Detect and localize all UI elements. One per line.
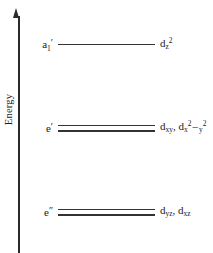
orbital-label-e-prime: dxy, dx2–y2: [160, 121, 213, 132]
symmetry-prime: ″: [49, 205, 53, 216]
symmetry-label-e-prime: e′: [5, 122, 53, 134]
level-line: [58, 214, 155, 215]
level-line: [58, 209, 155, 210]
symmetry-label-a1-prime: a1′: [5, 38, 53, 50]
level-line: [58, 125, 155, 126]
symmetry-prime: ′: [51, 121, 53, 132]
orbital-label-a1-prime: dz2: [160, 38, 213, 49]
symmetry-prime: ′: [51, 37, 53, 48]
cropped-top-text: [0, 0, 213, 1]
orbital-label-e-double-prime: dyz, dxz: [160, 205, 213, 216]
level-line: [58, 130, 155, 131]
level-line: [58, 44, 155, 45]
level-line-group-e-double-prime: [58, 209, 155, 216]
level-line-group-e-prime: [58, 125, 155, 132]
level-line-group-a1-prime: [58, 44, 155, 45]
energy-level-diagram: Energy a1′ dz2 e′ dxy, dx2–y2 e″: [0, 0, 213, 253]
symmetry-label-e-double-prime: e″: [5, 206, 53, 218]
